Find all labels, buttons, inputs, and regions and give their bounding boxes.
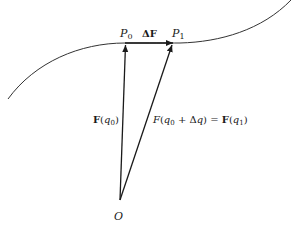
f-q0-label: F(q0): [93, 114, 119, 127]
origin-label: O: [114, 210, 123, 223]
delta-f-label: ΔF: [142, 28, 157, 39]
f-q1-label: F(q0 + Δq) = F(q1): [152, 114, 248, 127]
vector-f-q0-arrow: [120, 45, 126, 200]
vector-diagram: P0 ΔF P1 F(q0) F(q0 + Δq) = F(q1) O: [0, 0, 291, 225]
curve: [8, 0, 291, 99]
point-p1-label: P1: [171, 27, 185, 41]
point-p0-label: P0: [119, 27, 133, 41]
